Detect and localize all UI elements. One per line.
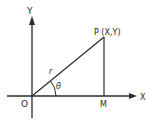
x-axis-label: X (140, 93, 146, 102)
polar-coordinates-diagram: Y X O P (X,Y) M r θ (0, 0, 150, 127)
point-label: P (X,Y) (94, 28, 121, 37)
origin-label: O (21, 99, 28, 109)
y-axis-arrow-icon (29, 16, 35, 25)
y-axis-label: Y (26, 6, 33, 16)
foot-label: M (100, 100, 107, 109)
angle-label: θ (56, 82, 61, 91)
x-axis-arrow-icon (129, 93, 137, 99)
radius-label: r (49, 67, 53, 76)
radius-line (32, 37, 104, 96)
